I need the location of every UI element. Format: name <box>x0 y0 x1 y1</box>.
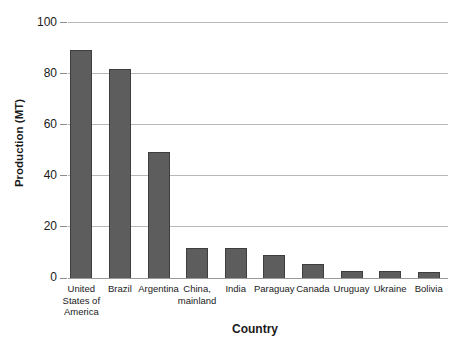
gridline-100 <box>68 22 448 23</box>
gridline-0 <box>68 278 448 279</box>
y-axis-tick-80 <box>60 73 67 74</box>
bar-4 <box>225 248 247 278</box>
y-tick-label-80: 80 <box>0 67 57 80</box>
y-axis-tick-40 <box>60 175 67 176</box>
bar-1 <box>109 69 131 278</box>
bar-2 <box>148 152 170 278</box>
production-bar-chart: Production (MT) Country 020406080100Unit… <box>0 0 466 347</box>
bar-0 <box>70 50 92 278</box>
bar-3 <box>186 248 208 278</box>
y-tick-label-100: 100 <box>0 16 57 29</box>
y-axis-tick-20 <box>60 226 67 227</box>
y-tick-label-20: 20 <box>0 220 57 233</box>
bar-7 <box>341 271 363 278</box>
y-axis-tick-0 <box>60 278 67 279</box>
y-axis-tick-100 <box>60 22 67 23</box>
y-tick-label-60: 60 <box>0 118 57 131</box>
bar-9 <box>418 272 440 278</box>
y-tick-label-0: 0 <box>0 271 57 284</box>
x-category-label-9: Bolivia <box>400 283 458 295</box>
bar-8 <box>379 271 401 278</box>
bar-5 <box>263 255 285 278</box>
y-axis-tick-60 <box>60 124 67 125</box>
y-tick-label-40: 40 <box>0 169 57 182</box>
x-axis-title: Country <box>62 322 448 336</box>
plot-area <box>62 23 448 278</box>
bar-6 <box>302 264 324 278</box>
